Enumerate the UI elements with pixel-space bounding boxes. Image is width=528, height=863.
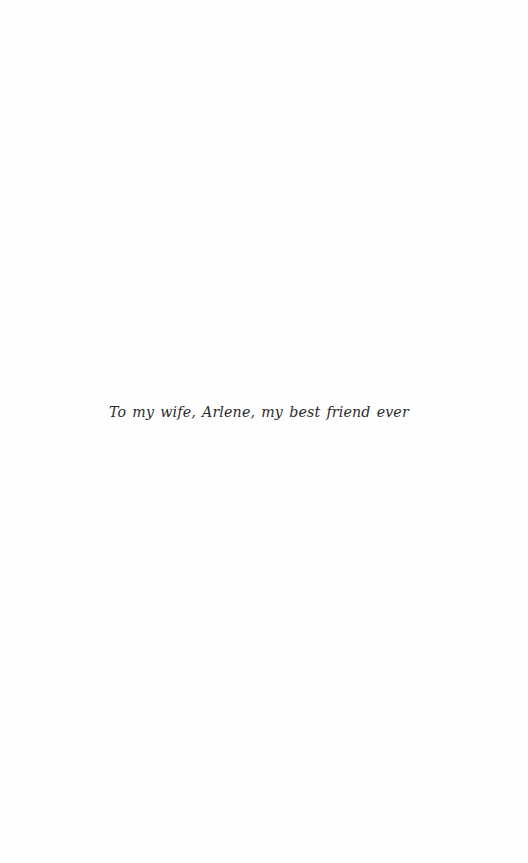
dedication-text: To my wife, Arlene, my best friend ever: [109, 402, 409, 422]
book-page: To my wife, Arlene, my best friend ever: [0, 0, 528, 863]
